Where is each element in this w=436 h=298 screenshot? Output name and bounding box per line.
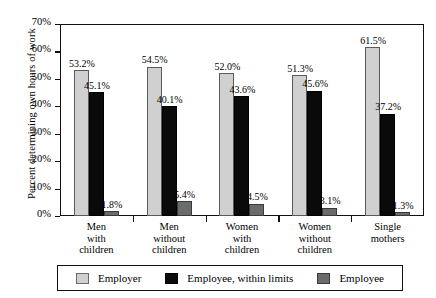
y-axis-tick-label: 50% <box>32 71 51 82</box>
bar-value-label: 4.5% <box>238 191 276 202</box>
x-axis-category-label: Womenwithchildren <box>206 221 279 256</box>
bar-value-label: 1.8% <box>93 199 131 210</box>
legend-label-employee: Employee <box>339 272 384 284</box>
bar[interactable] <box>322 208 337 217</box>
legend-label-employer: Employer <box>98 272 141 284</box>
x-axis-category-line: mothers <box>351 233 424 245</box>
y-axis-tick-label: 30% <box>32 126 51 137</box>
legend-swatch-employer <box>76 273 89 284</box>
legend-item-employee[interactable]: Employee <box>317 272 384 284</box>
bar-chart: Percent determining own hours of work 70… <box>0 0 436 298</box>
x-axis-category-line: without <box>133 233 206 245</box>
bar[interactable] <box>89 92 104 216</box>
bar-value-label: 45.1% <box>78 80 116 91</box>
bar-value-label: 51.3% <box>281 63 319 74</box>
x-axis-category-line: without <box>278 233 351 245</box>
legend-item-employer[interactable]: Employer <box>76 272 141 284</box>
y-axis-tick-label: 40% <box>32 98 51 109</box>
y-axis-tick-label: 0% <box>37 208 51 219</box>
x-axis-category-line: children <box>206 244 279 256</box>
bar[interactable] <box>365 47 380 216</box>
legend: Employer Employee, within limits Employe… <box>57 265 403 291</box>
x-axis-category-label: Womenwithoutchildren <box>278 221 351 256</box>
bar-value-label: 37.2% <box>369 101 407 112</box>
legend-swatch-employee <box>317 273 330 284</box>
y-axis-tick-label: 70% <box>32 16 51 27</box>
bar-group: 53.2%45.1%1.8% <box>60 24 133 216</box>
bar[interactable] <box>104 211 119 216</box>
y-axis-tick-label: 20% <box>32 153 51 164</box>
bar-value-label: 43.6% <box>223 84 261 95</box>
x-axis-category-line: children <box>278 244 351 256</box>
x-axis-category-label: Menwithchildren <box>60 221 133 256</box>
bar-value-label: 5.4% <box>166 189 204 200</box>
bar[interactable] <box>147 67 162 216</box>
top-caption-fragment <box>28 0 428 8</box>
bar-value-label: 3.1% <box>311 195 349 206</box>
bar-group: 51.3%45.6%3.1% <box>278 24 351 216</box>
x-axis-category-line: children <box>60 244 133 256</box>
x-axis-category-line: Single <box>351 221 424 233</box>
y-axis-tick-label: 10% <box>32 181 51 192</box>
bar[interactable] <box>292 75 307 216</box>
bar-group: 54.5%40.1%5.4% <box>133 24 206 216</box>
x-axis-category-label: Menwithoutchildren <box>133 221 206 256</box>
bar[interactable] <box>177 201 192 216</box>
bar[interactable] <box>74 70 89 216</box>
legend-swatch-employee-within-limits <box>165 273 178 284</box>
bar-value-label: 61.5% <box>354 35 392 46</box>
bar[interactable] <box>249 204 264 216</box>
bar-value-label: 53.2% <box>63 58 101 69</box>
legend-label-employee-within-limits: Employee, within limits <box>187 272 293 284</box>
x-axis-category-line: Men <box>133 221 206 233</box>
bar-groups: 53.2%45.1%1.8%54.5%40.1%5.4%52.0%43.6%4.… <box>60 24 424 216</box>
x-axis-category-line: Women <box>278 221 351 233</box>
bar-group: 52.0%43.6%4.5% <box>206 24 279 216</box>
x-axis-category-line: with <box>206 233 279 245</box>
x-axis-category-label: Singlemothers <box>351 221 424 244</box>
bar-value-label: 52.0% <box>208 61 246 72</box>
x-axis-category-line: Women <box>206 221 279 233</box>
bar-group: 61.5%37.2%1.3% <box>351 24 424 216</box>
legend-item-employee-within-limits[interactable]: Employee, within limits <box>165 272 293 284</box>
bar-value-label: 45.6% <box>296 78 334 89</box>
x-axis-category-line: with <box>60 233 133 245</box>
y-axis-tick-mark <box>55 216 60 217</box>
y-axis-tick-label: 60% <box>32 43 51 54</box>
bar[interactable] <box>395 212 410 216</box>
x-axis-category-line: children <box>133 244 206 256</box>
bar-value-label: 40.1% <box>151 94 189 105</box>
bar-value-label: 54.5% <box>136 54 174 65</box>
bar-value-label: 1.3% <box>384 200 422 211</box>
x-axis-category-line: Men <box>60 221 133 233</box>
